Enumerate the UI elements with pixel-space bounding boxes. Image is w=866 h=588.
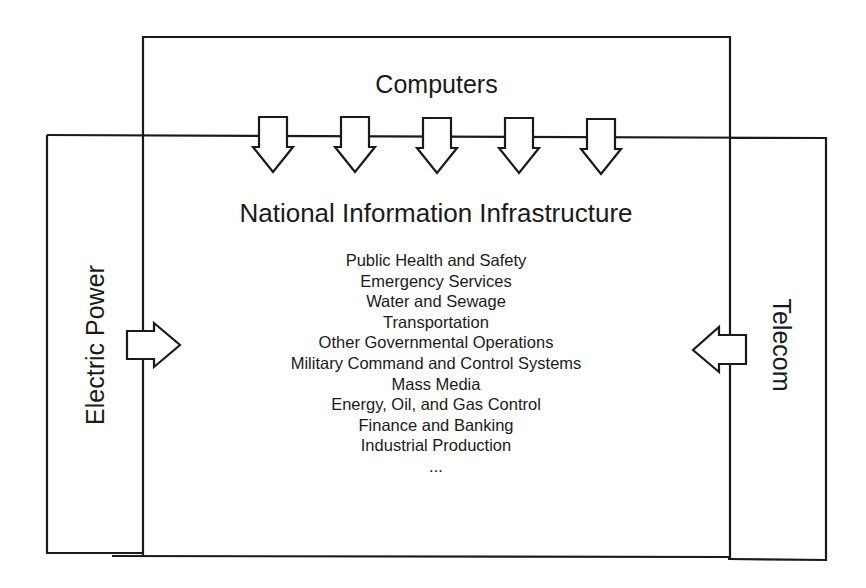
sector-item: Finance and Banking xyxy=(143,415,729,436)
sector-ellipsis: ... xyxy=(143,456,729,477)
sector-item: Other Governmental Operations xyxy=(143,332,729,353)
sector-list: Public Health and Safety Emergency Servi… xyxy=(143,250,729,477)
sector-item: Military Command and Control Systems xyxy=(143,353,729,374)
down-arrow-icon xyxy=(253,117,293,172)
bottom-line xyxy=(112,556,730,557)
computers-label: Computers xyxy=(143,70,730,99)
sector-item: Water and Sewage xyxy=(143,291,729,312)
nii-title: National Information Infrastructure xyxy=(143,198,729,229)
telecom-label: Telecom xyxy=(767,298,796,391)
sector-item: Public Health and Safety xyxy=(143,250,729,271)
down-arrow-icon xyxy=(335,117,375,172)
down-arrow-icon xyxy=(581,119,621,174)
electric-power-label: Electric Power xyxy=(81,265,110,425)
down-arrow-icon xyxy=(499,118,539,173)
sector-item: Industrial Production xyxy=(143,435,729,456)
sector-item: Energy, Oil, and Gas Control xyxy=(143,394,729,415)
sector-item: Mass Media xyxy=(143,374,729,395)
sector-item: Transportation xyxy=(143,312,729,333)
sector-item: Emergency Services xyxy=(143,271,729,292)
computers-arrows xyxy=(253,117,621,174)
down-arrow-icon xyxy=(417,118,457,173)
